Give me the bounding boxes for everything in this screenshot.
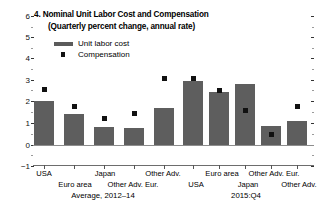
bars-and-markers-layer	[0, 0, 326, 145]
bar-avg-other-adv	[154, 108, 174, 145]
marker-q4-japan	[243, 108, 248, 113]
marker-q4-other-adv	[295, 104, 300, 109]
x-label-left-other-adv: Other Adv.	[145, 169, 180, 178]
bar-q4-euro-area	[209, 92, 229, 145]
bar-q4-usa	[183, 81, 203, 146]
x-label-left-japan: Japan	[95, 169, 116, 178]
x-tick	[134, 165, 135, 169]
x-label-right-other-adv: Other Adv.	[281, 180, 316, 189]
marker-avg-euro-area	[72, 104, 77, 109]
marker-avg-other-adv-eur	[132, 111, 137, 116]
chart-figure: 4. Nominal Unit Labor Cost and Compensat…	[0, 0, 326, 212]
x-label-right-usa: USA	[188, 180, 204, 189]
marker-avg-other-adv	[162, 76, 167, 81]
bar-avg-euro-area	[64, 114, 84, 145]
x-label-left-other-adv-eur: Other Adv. Eur.	[108, 180, 159, 189]
bar-avg-other-adv-eur	[124, 128, 144, 145]
marker-avg-usa	[42, 87, 47, 92]
marker-q4-other-adv-eur	[269, 132, 274, 137]
x-label-left-usa: USA	[36, 169, 52, 178]
marker-q4-usa	[191, 76, 196, 81]
x-group-caption-left: Average, 2012–14	[71, 191, 135, 200]
y-tick-label-neg1: −1	[21, 162, 30, 171]
x-label-right-euro-area: Euro area	[205, 169, 238, 178]
x-label-right-other-adv-eur: Other Adv. Eur.	[249, 169, 300, 178]
x-tick	[74, 165, 75, 169]
bar-avg-usa	[34, 101, 54, 145]
bar-q4-japan	[235, 84, 255, 145]
marker-avg-japan	[102, 116, 107, 121]
x-label-left-euro-area: Euro area	[58, 180, 91, 189]
bar-avg-japan	[94, 127, 114, 145]
marker-q4-euro-area	[217, 88, 222, 93]
x-label-right-japan: Japan	[238, 180, 259, 189]
zero-baseline	[33, 145, 314, 146]
bar-q4-other-adv	[287, 121, 307, 145]
x-tick	[245, 165, 246, 169]
x-group-caption-right: 2015:Q4	[231, 191, 261, 200]
x-tick	[193, 165, 194, 169]
